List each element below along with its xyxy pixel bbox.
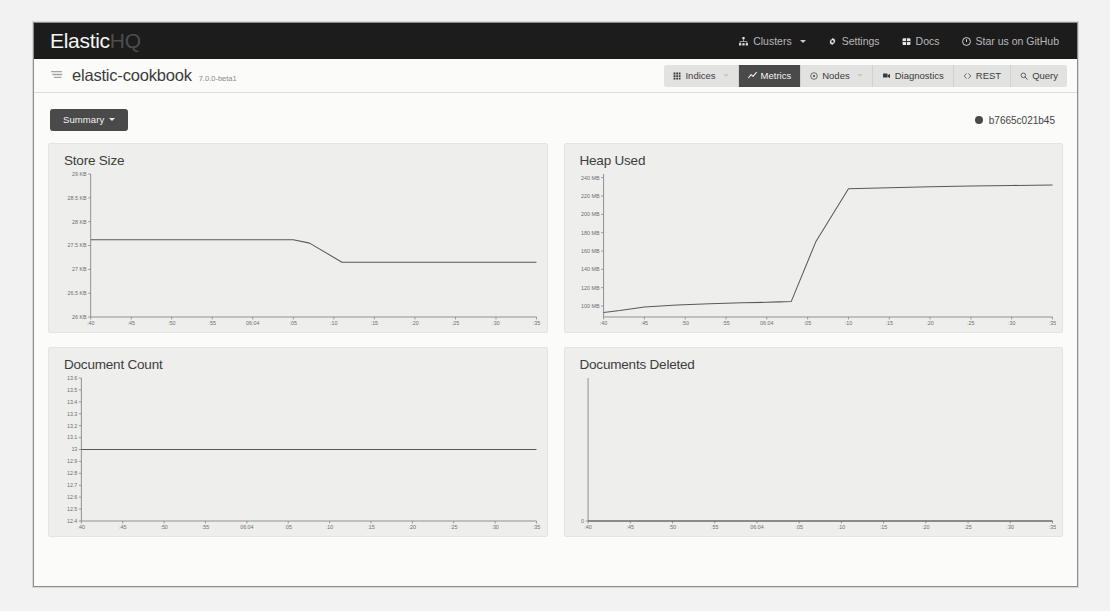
cluster-subbar: elastic-cookbook 7.0.0-beta1 Indices Met…	[34, 59, 1077, 93]
main-content: Summary b7665c021b45 Store Size 29 KB28.…	[34, 93, 1077, 587]
svg-text:28 KB: 28 KB	[72, 219, 87, 225]
svg-text:240 MB: 240 MB	[581, 175, 600, 181]
svg-text:06:04: 06:04	[240, 524, 253, 530]
browser-page: ElasticHQ Clusters Settings	[33, 22, 1078, 587]
svg-text::35: :35	[533, 524, 540, 530]
node-id-label: b7665c021b45	[989, 115, 1055, 126]
tab-diagnostics[interactable]: Diagnostics	[873, 65, 954, 87]
chevron-down-icon	[723, 74, 729, 77]
circle-dot-icon	[810, 72, 818, 80]
svg-text::10: :10	[837, 524, 844, 530]
svg-text:12.7: 12.7	[67, 482, 77, 488]
svg-text:26 KB: 26 KB	[72, 314, 87, 320]
svg-text::25: :25	[967, 320, 974, 326]
svg-text:13.3: 13.3	[67, 411, 77, 417]
chart-documents-deleted[interactable]: 0:40:45:50:5506:04:05:10:15:20:25:30:35	[571, 374, 1057, 534]
svg-text::40: :40	[599, 320, 606, 326]
svg-text::15: :15	[367, 524, 374, 530]
tab-indices[interactable]: Indices	[664, 65, 738, 87]
metrics-grid: Store Size 29 KB28.5 KB28 KB27.5 KB27 KB…	[48, 143, 1063, 537]
svg-text:160 MB: 160 MB	[581, 248, 600, 254]
panel-documents-deleted: Documents Deleted 0:40:45:50:5506:04:05:…	[564, 347, 1064, 537]
nav-item-settings[interactable]: Settings	[828, 35, 880, 47]
chevron-down-icon	[800, 40, 806, 43]
summary-dropdown-button[interactable]: Summary	[50, 109, 128, 131]
svg-text::10: :10	[330, 320, 337, 326]
book-icon	[902, 37, 911, 46]
cluster-identity: elastic-cookbook 7.0.0-beta1	[50, 66, 237, 85]
panel-document-count: Document Count 13.613.513.413.313.213.11…	[48, 347, 548, 537]
chart-heap-used[interactable]: 240 MB220 MB200 MB180 MB160 MB140 MB120 …	[571, 170, 1057, 330]
svg-text::40: :40	[87, 320, 94, 326]
cluster-version-text: 7.0.0-beta1	[199, 74, 237, 83]
tab-indices-label: Indices	[685, 70, 715, 81]
svg-text:100 MB: 100 MB	[581, 303, 600, 309]
svg-text::45: :45	[127, 320, 134, 326]
tab-query[interactable]: Query	[1011, 65, 1067, 87]
svg-text:0: 0	[581, 518, 584, 524]
node-status-dot-icon	[975, 116, 983, 124]
tab-nodes-label: Nodes	[822, 70, 849, 81]
brand-secondary-text: HQ	[110, 29, 141, 52]
svg-text::05: :05	[795, 524, 802, 530]
brand-logo[interactable]: ElasticHQ	[50, 29, 141, 53]
svg-text:12.8: 12.8	[67, 470, 77, 476]
tab-nodes[interactable]: Nodes	[801, 65, 872, 87]
chart-store-size[interactable]: 29 KB28.5 KB28 KB27.5 KB27 KB26.5 KB26 K…	[55, 170, 541, 330]
svg-text:13.4: 13.4	[67, 399, 77, 405]
nav-item-docs[interactable]: Docs	[902, 35, 940, 47]
svg-text:27 KB: 27 KB	[72, 266, 87, 272]
svg-text::30: :30	[1006, 524, 1013, 530]
summary-dropdown-label: Summary	[63, 114, 104, 125]
svg-text:06:04: 06:04	[246, 320, 259, 326]
stethoscope-icon	[882, 72, 891, 80]
svg-text:29 KB: 29 KB	[72, 171, 87, 177]
svg-text:28.5 KB: 28.5 KB	[68, 195, 88, 201]
metrics-toolbar: Summary b7665c021b45	[48, 93, 1063, 143]
panel-title-documents-deleted: Documents Deleted	[580, 357, 1053, 372]
grid-icon	[673, 72, 681, 80]
svg-text::25: :25	[450, 524, 457, 530]
navbar-links: Clusters Settings Docs	[739, 35, 1063, 47]
svg-text::10: :10	[326, 524, 333, 530]
node-badge[interactable]: b7665c021b45	[975, 115, 1061, 126]
svg-text:27.5 KB: 27.5 KB	[68, 242, 88, 248]
svg-text:180 MB: 180 MB	[581, 230, 600, 236]
svg-text:12.5: 12.5	[67, 506, 77, 512]
panel-store-size: Store Size 29 KB28.5 KB28 KB27.5 KB27 KB…	[48, 143, 548, 333]
svg-text::15: :15	[885, 320, 892, 326]
svg-text:200 MB: 200 MB	[581, 211, 600, 217]
svg-text::05: :05	[285, 524, 292, 530]
search-icon	[1020, 72, 1028, 80]
svg-text::50: :50	[168, 320, 175, 326]
chevron-down-icon	[857, 74, 863, 77]
tab-rest[interactable]: REST	[954, 65, 1011, 87]
code-icon	[963, 72, 972, 80]
svg-text:12.9: 12.9	[67, 458, 77, 464]
svg-text::20: :20	[922, 524, 929, 530]
svg-text::45: :45	[119, 524, 126, 530]
svg-text::05: :05	[803, 320, 810, 326]
svg-text::15: :15	[371, 320, 378, 326]
svg-text:13.1: 13.1	[67, 434, 77, 440]
svg-text::55: :55	[711, 524, 718, 530]
nav-item-github[interactable]: Star us on GitHub	[962, 35, 1059, 47]
svg-text::20: :20	[926, 320, 933, 326]
svg-text::55: :55	[209, 320, 216, 326]
chevron-down-icon	[109, 118, 115, 121]
svg-text::30: :30	[491, 524, 498, 530]
svg-text:120 MB: 120 MB	[581, 285, 600, 291]
svg-text:13.5: 13.5	[67, 387, 77, 393]
nav-item-clusters[interactable]: Clusters	[739, 35, 806, 47]
screenshot-root: ElasticHQ Clusters Settings	[0, 0, 1110, 611]
svg-text::55: :55	[722, 320, 729, 326]
svg-text::45: :45	[640, 320, 647, 326]
cluster-name-text: elastic-cookbook	[72, 66, 192, 85]
panel-title-document-count: Document Count	[64, 357, 537, 372]
panel-title-store-size: Store Size	[64, 153, 537, 168]
svg-text:13.2: 13.2	[67, 423, 77, 429]
tab-metrics[interactable]: Metrics	[739, 65, 802, 87]
chart-document-count[interactable]: 13.613.513.413.313.213.11312.912.812.712…	[55, 374, 541, 534]
svg-text:06:04: 06:04	[760, 320, 773, 326]
svg-text::35: :35	[533, 320, 540, 326]
